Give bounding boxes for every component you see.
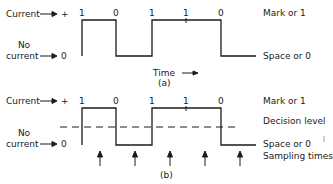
bit-b-2: 0 xyxy=(113,96,119,106)
plus-symbol-a: + xyxy=(61,9,69,19)
space-label-a: Space or 0 xyxy=(263,51,311,61)
current-label-a2: current xyxy=(6,51,38,61)
bit-b-5: 0 xyxy=(218,96,224,106)
sampling-times-label: Sampling times xyxy=(263,151,333,161)
bit-a-2: 0 xyxy=(113,8,119,18)
bit-b-3: 1 xyxy=(149,96,155,106)
zero-symbol-a: 0 xyxy=(61,51,67,61)
plus-symbol-b: + xyxy=(61,96,69,106)
sampling-time-arrows xyxy=(98,151,243,166)
mark-label-b: Mark or 1 xyxy=(263,96,306,106)
bit-a-5: 0 xyxy=(218,8,224,18)
current-label-a: Current xyxy=(6,9,40,19)
bit-a-1: 1 xyxy=(79,8,85,18)
space-label-b: Space or 0 xyxy=(263,139,311,149)
caption-b: (b) xyxy=(160,170,173,180)
bit-b-1: 1 xyxy=(79,96,85,106)
no-label-a: No xyxy=(14,40,34,50)
current-label-b: Current xyxy=(6,96,40,106)
bit-b-4: 1 xyxy=(183,96,189,106)
bit-a-3: 1 xyxy=(149,8,155,18)
time-arrow-icon xyxy=(182,71,198,75)
panel-a-waveform xyxy=(82,20,256,56)
decision-level-label: Decision level xyxy=(263,116,326,126)
panel-a-label-arrows xyxy=(40,12,57,59)
no-label-b: No xyxy=(14,128,34,138)
caption-a: (a) xyxy=(158,78,171,88)
bit-a-4: 1 xyxy=(183,8,189,18)
time-label: Time xyxy=(153,68,175,78)
current-label-b2: current xyxy=(6,139,38,149)
panel-b-label-arrows xyxy=(40,99,57,147)
zero-symbol-b: 0 xyxy=(61,139,67,149)
mark-label-a: Mark or 1 xyxy=(263,8,306,18)
